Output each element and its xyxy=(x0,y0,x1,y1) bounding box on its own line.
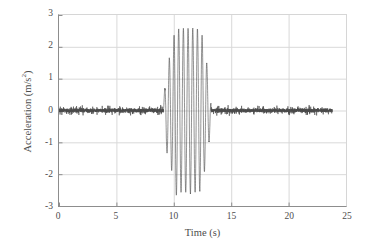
x-tick-label: 15 xyxy=(211,212,251,222)
acceleration-series xyxy=(59,15,346,206)
x-axis-label: Time (s) xyxy=(58,227,347,238)
y-axis-label-tail: ) xyxy=(22,71,33,75)
x-axis-ticks: 0510152025 xyxy=(0,212,371,226)
y-axis-label-exponent: 2 xyxy=(20,74,28,78)
y-axis-label-text: Acceleration (m/s xyxy=(22,78,33,153)
x-tick-label: 25 xyxy=(327,212,367,222)
x-tick-label: 0 xyxy=(38,212,78,222)
x-tick-label: 5 xyxy=(96,212,136,222)
chart-figure: 3210-1-2-3 0510152025 Time (s) Accelerat… xyxy=(0,0,371,246)
y-axis-label: Acceleration (m/s2) xyxy=(22,12,33,212)
plot-area xyxy=(58,14,347,207)
x-tick-label: 20 xyxy=(269,212,309,222)
x-tick-label: 10 xyxy=(154,212,194,222)
